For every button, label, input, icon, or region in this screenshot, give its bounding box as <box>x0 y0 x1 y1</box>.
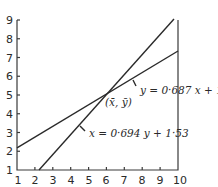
svg-text:1: 1 <box>15 174 22 187</box>
svg-text:9: 9 <box>6 14 13 27</box>
svg-text:8: 8 <box>139 174 146 187</box>
svg-text:3: 3 <box>50 174 57 187</box>
eq1-pointer <box>133 80 136 86</box>
svg-text:8: 8 <box>6 33 13 46</box>
eq2-pointer <box>80 126 85 131</box>
svg-text:4: 4 <box>6 108 13 121</box>
eq2-label: x = 0·694 y + 1·53 <box>89 127 189 139</box>
svg-text:2: 2 <box>32 174 39 187</box>
regression-chart: 1 2 3 4 5 6 7 8 9 1 2 3 4 5 6 7 8 9 10 y… <box>0 0 218 187</box>
svg-text:4: 4 <box>68 174 75 187</box>
svg-text:9: 9 <box>157 174 164 187</box>
svg-text:3: 3 <box>6 127 13 140</box>
svg-text:6: 6 <box>6 70 13 83</box>
mean-point-label: (x̄, ȳ) <box>105 96 132 108</box>
svg-text:10: 10 <box>173 174 187 187</box>
svg-text:5: 5 <box>6 89 13 102</box>
x-axis-labels: 1 2 3 4 5 6 7 8 9 10 <box>15 174 188 187</box>
svg-text:2: 2 <box>6 145 13 158</box>
y-axis-labels: 1 2 3 4 5 6 7 8 9 <box>6 14 13 177</box>
eq1-label: y = 0·687 x + 1·49 <box>139 84 218 96</box>
svg-text:1: 1 <box>6 164 13 177</box>
svg-text:5: 5 <box>86 174 93 187</box>
svg-text:7: 7 <box>121 174 128 187</box>
svg-text:7: 7 <box>6 52 13 65</box>
svg-text:6: 6 <box>103 174 110 187</box>
